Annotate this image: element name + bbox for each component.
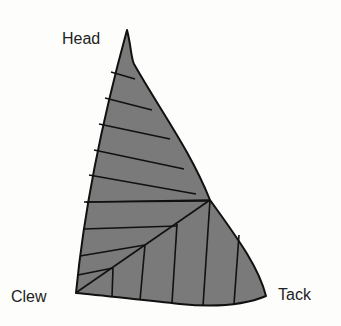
tack-label: Tack (278, 287, 311, 303)
clew-label: Clew (11, 289, 47, 305)
head-label: Head (62, 31, 100, 47)
sail-diagram (0, 0, 341, 326)
